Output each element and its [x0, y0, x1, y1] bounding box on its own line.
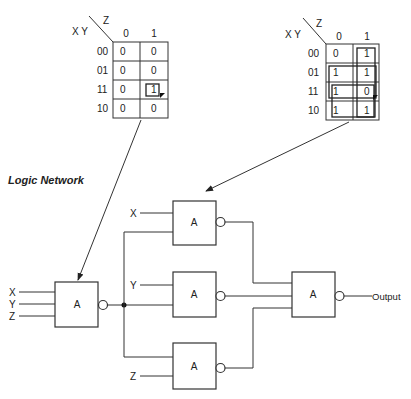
input-gate: X Y Z A — [9, 282, 108, 327]
input-label-z: Z — [130, 371, 136, 382]
section-title: Logic Network — [8, 174, 85, 186]
kmap-right-cell: 1 — [333, 105, 339, 116]
kmap-left-col-header: 1 — [151, 28, 157, 39]
logic-diagram: Z X Y 0 1 00 01 11 10 0 0 0 0 0 1 0 0 Z … — [0, 0, 411, 399]
kmap-right-row-header: 00 — [308, 48, 320, 59]
kmap-left-xy-label: X Y — [72, 26, 88, 37]
arrow-left-kmap-to-input-gate — [78, 120, 141, 280]
kmap-left-row-header: 00 — [97, 46, 109, 57]
inversion-bubble-icon — [335, 292, 344, 301]
input-label-x: X — [130, 208, 137, 219]
group-marker-icon — [160, 93, 165, 98]
kmap-left-cell: 0 — [120, 46, 126, 57]
kmap-right-cell: 1 — [333, 86, 339, 97]
kmap-left-cell: 0 — [151, 103, 157, 114]
input-label-x: X — [9, 287, 16, 298]
input-label-z: Z — [9, 311, 15, 322]
kmap-right-diagonal — [303, 18, 326, 44]
inversion-bubble-icon — [216, 218, 225, 227]
inversion-bubble-icon — [216, 292, 225, 301]
kmap-right-cell: 1 — [364, 105, 370, 116]
gate-mid: Y A — [130, 272, 292, 317]
kmap-right-cell: 0 — [333, 48, 339, 59]
kmap-right-row-header: 01 — [308, 67, 320, 78]
kmap-left-diagonal — [89, 16, 113, 42]
kmap-left-z-label: Z — [103, 15, 109, 26]
gate-top: X A — [130, 201, 292, 283]
gate-label: A — [191, 361, 198, 372]
kmap-right-cell: 1 — [364, 48, 370, 59]
inversion-bubble-icon — [99, 301, 108, 310]
kmap-right-z-label: Z — [316, 18, 322, 29]
output-label: Output — [372, 291, 401, 302]
gate-bottom: Z A — [130, 308, 292, 389]
kmap-right-col-header: 0 — [336, 31, 342, 42]
kmap-left-col-header: 0 — [123, 28, 129, 39]
arrow-right-kmap-to-network — [206, 122, 349, 191]
kmap-left-row-header: 11 — [97, 84, 108, 95]
kmap-left-cell: 0 — [151, 65, 157, 76]
kmap-left-cell: 0 — [151, 46, 157, 57]
kmap-left-cell: 1 — [151, 84, 157, 95]
kmap-right-cell: 1 — [364, 67, 370, 78]
kmap-right-row-header: 10 — [308, 105, 320, 116]
kmap-right-cell: 1 — [333, 67, 339, 78]
inversion-bubble-icon — [216, 364, 225, 373]
gate-label: A — [191, 217, 198, 228]
kmap-left-cell: 0 — [120, 103, 126, 114]
kmap-right-xy-label: X Y — [285, 29, 301, 40]
output-gate: A Output — [292, 272, 401, 317]
kmap-right-row-header: 11 — [308, 86, 319, 97]
input-label-y: Y — [130, 280, 137, 291]
gate-label: A — [310, 289, 317, 300]
gate-label: A — [191, 289, 198, 300]
kmap-left-cell: 0 — [120, 84, 126, 95]
input-label-y: Y — [9, 299, 16, 310]
kmap-left-cell: 0 — [120, 65, 126, 76]
kmap-right-col-header: 1 — [364, 31, 370, 42]
kmap-left-row-header: 10 — [97, 103, 109, 114]
kmap-left: Z X Y 0 1 00 01 11 10 0 0 0 0 0 1 0 0 — [72, 15, 168, 118]
kmap-right: Z X Y 0 1 00 01 11 10 0 1 1 1 1 0 1 1 — [285, 18, 379, 120]
gate-label: A — [74, 299, 81, 310]
kmap-right-cell: 0 — [364, 86, 370, 97]
kmap-left-row-header: 01 — [97, 65, 109, 76]
